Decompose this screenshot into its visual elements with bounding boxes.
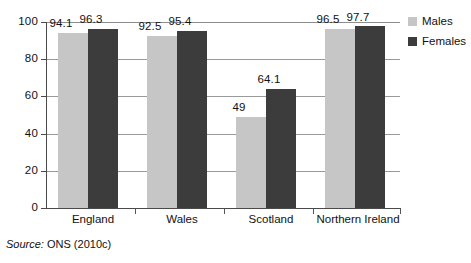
bar-scotland-females	[266, 89, 296, 208]
legend-label-males: Males	[422, 16, 453, 28]
y-tick-label-60: 60	[25, 90, 38, 102]
bar-england-males	[58, 33, 88, 208]
x-axis-label-northern-ireland: Northern Ireland	[312, 213, 404, 226]
bar-scotland-males	[236, 117, 266, 208]
y-tick-mark-20	[41, 171, 47, 172]
value-label-scotland-males: 49	[221, 102, 257, 114]
legend: Males Females	[408, 16, 471, 55]
legend-swatch-males-icon	[408, 17, 417, 26]
y-tick-label-40: 40	[25, 128, 38, 140]
legend-item-males: Males	[408, 16, 471, 28]
source-note: Source: ONS (2010c)	[6, 238, 111, 251]
y-tick-label-20: 20	[25, 165, 38, 177]
y-tick-label-80: 80	[25, 53, 38, 65]
bar-wales-females	[177, 31, 207, 208]
x-axis-label-wales: Wales	[137, 213, 227, 226]
legend-swatch-females-icon	[408, 37, 417, 46]
y-tick-mark-60	[41, 96, 47, 97]
bar-wales-males	[147, 36, 177, 208]
value-label-scotland-females: 64.1	[251, 74, 287, 86]
value-label-northern-ireland-females: 97.7	[340, 12, 376, 24]
y-tick-label-100: 100	[18, 16, 38, 28]
source-text: ONS (2010c)	[44, 238, 111, 250]
source-prefix: Source:	[6, 238, 44, 250]
x-axis-label-england: England	[48, 213, 138, 226]
y-axis-line	[46, 22, 47, 209]
bar-northern-ireland-males	[325, 29, 355, 209]
y-tick-mark-40	[41, 134, 47, 135]
legend-item-females: Females	[408, 36, 471, 48]
bar-northern-ireland-females	[355, 26, 385, 208]
x-axis-label-scotland: Scotland	[226, 213, 316, 226]
legend-label-females: Females	[422, 36, 466, 48]
value-label-england-females: 96.3	[73, 14, 109, 26]
value-label-wales-females: 95.4	[162, 16, 198, 28]
y-tick-label-0: 0	[31, 202, 38, 214]
bar-chart-figure: 100 80 60 40 20 0 94.1 96.3 92.5 95.4 49…	[0, 0, 471, 263]
y-tick-mark-0	[41, 208, 47, 209]
bar-england-females	[88, 29, 118, 208]
y-tick-mark-80	[41, 59, 47, 60]
plot-area	[46, 22, 400, 208]
